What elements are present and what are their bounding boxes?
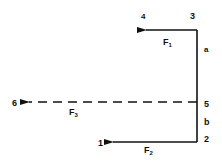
- force-label-f1: F1: [163, 37, 173, 48]
- force-label-f2: F2: [144, 145, 154, 156]
- point-label-5: 5: [204, 99, 209, 109]
- point-label-6: 6: [12, 98, 17, 108]
- force-label-f3: F3: [69, 107, 79, 118]
- point-label-1: 1: [98, 138, 103, 148]
- point-label-4: 4: [141, 12, 146, 21]
- segment-label-a: a: [204, 45, 209, 54]
- point-label-3: 3: [190, 11, 195, 21]
- point-label-2: 2: [204, 134, 209, 144]
- segment-label-b: b: [204, 117, 210, 127]
- force-diagram: 4 3 6 5 1 2 a b F1 F3 F2: [0, 0, 222, 168]
